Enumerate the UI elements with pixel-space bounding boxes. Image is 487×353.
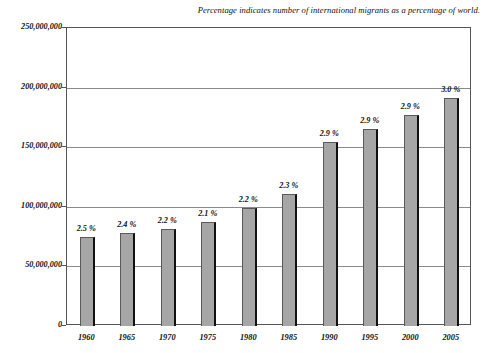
bar bbox=[404, 115, 419, 326]
bar-value-label: 2.9 % bbox=[388, 102, 432, 111]
bar-value-label: 2.4 % bbox=[105, 220, 149, 229]
y-axis-tick-label: 250,000,000 bbox=[0, 22, 62, 31]
x-axis-tick-label: 1970 bbox=[145, 333, 189, 342]
bar-value-label: 2.3 % bbox=[267, 181, 311, 190]
bar bbox=[80, 237, 95, 326]
y-axis-tick-mark bbox=[61, 325, 66, 326]
bar bbox=[363, 129, 378, 326]
y-axis-tick-label: 150,000,000 bbox=[0, 141, 62, 150]
bar bbox=[242, 208, 257, 326]
x-axis-tick-label: 1980 bbox=[226, 333, 270, 342]
migration-bar-chart: Percentage indicates number of internati… bbox=[0, 0, 487, 353]
bar-value-label: 2.2 % bbox=[145, 216, 189, 225]
x-axis-tick-label: 1985 bbox=[267, 333, 311, 342]
bar bbox=[282, 194, 297, 326]
x-axis-tick-label: 1975 bbox=[186, 333, 230, 342]
bar bbox=[323, 142, 338, 326]
x-axis-tick-label: 1960 bbox=[64, 333, 108, 342]
bar-value-label: 2.1 % bbox=[186, 209, 230, 218]
bar-value-label: 2.5 % bbox=[64, 224, 108, 233]
x-axis-tick-label: 2005 bbox=[429, 333, 473, 342]
y-axis-tick-label: 0 bbox=[0, 320, 62, 329]
bar bbox=[201, 222, 216, 326]
bar bbox=[161, 229, 176, 326]
y-axis-tick-label: 100,000,000 bbox=[0, 201, 62, 210]
x-axis-tick-label: 1990 bbox=[307, 333, 351, 342]
x-axis-tick-label: 2000 bbox=[388, 333, 432, 342]
x-axis-tick-label: 1965 bbox=[105, 333, 149, 342]
chart-annotation: Percentage indicates number of internati… bbox=[90, 5, 480, 15]
gridline bbox=[67, 88, 470, 89]
bar-value-label: 2.9 % bbox=[348, 116, 392, 125]
plot-area bbox=[66, 27, 471, 325]
bar-value-label: 2.9 % bbox=[307, 129, 351, 138]
y-axis-tick-label: 200,000,000 bbox=[0, 82, 62, 91]
y-axis-tick-label: 50,000,000 bbox=[0, 260, 62, 269]
bar bbox=[444, 98, 459, 326]
bar-value-label: 3.0 % bbox=[429, 85, 473, 94]
x-axis-tick-label: 1995 bbox=[348, 333, 392, 342]
bar-value-label: 2.2 % bbox=[226, 195, 270, 204]
bar bbox=[120, 233, 135, 326]
